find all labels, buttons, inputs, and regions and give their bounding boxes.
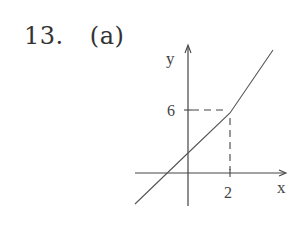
x-tick-label-2: 2 bbox=[224, 184, 232, 201]
function-line bbox=[135, 50, 273, 204]
y-tick-label-6: 6 bbox=[167, 102, 175, 119]
y-axis-label: y bbox=[166, 49, 175, 68]
graph: y x 6 2 bbox=[0, 0, 305, 229]
x-axis-label: x bbox=[277, 178, 286, 197]
